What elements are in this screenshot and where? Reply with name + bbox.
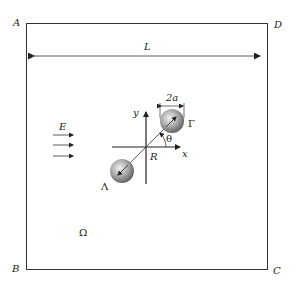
- diagram-canvas: A D B C L E x y R θ Γ 2a Λ Ω: [0, 0, 297, 288]
- corner-label-d: D: [273, 19, 282, 30]
- width-label: L: [143, 41, 151, 52]
- diameter-label: 2a: [165, 92, 178, 103]
- particle-gamma-label: Γ: [188, 118, 195, 129]
- angle-label: θ: [166, 133, 172, 144]
- field-label: E: [58, 121, 67, 132]
- corner-label-b: B: [11, 263, 19, 274]
- x-axis-label: x: [182, 148, 188, 159]
- y-axis-label: y: [132, 107, 139, 118]
- particle-lambda-label: Λ: [100, 181, 109, 192]
- corner-label-a: A: [12, 17, 20, 28]
- origin-label: R: [149, 151, 158, 162]
- domain-label: Ω: [79, 227, 87, 238]
- corner-label-c: C: [273, 265, 281, 276]
